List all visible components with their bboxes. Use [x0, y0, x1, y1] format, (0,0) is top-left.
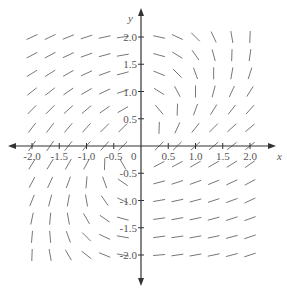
- slope-segment: [119, 124, 127, 132]
- x-tick-label: 2.0: [243, 150, 257, 162]
- x-axis-right-arrow-icon: [268, 143, 276, 149]
- slope-segment: [171, 254, 183, 256]
- slope-segment: [118, 179, 128, 186]
- slope-segment: [103, 177, 107, 188]
- slope-segment: [208, 254, 220, 256]
- slope-segment: [100, 124, 108, 132]
- y-tick-label: -0.5: [120, 167, 138, 179]
- slope-segment: [30, 195, 34, 206]
- x-tick-label: -1.0: [78, 150, 96, 162]
- slope-segment: [226, 180, 237, 185]
- slope-segment: [31, 213, 33, 225]
- x-tick-label: -0.5: [105, 150, 123, 162]
- slope-segment: [50, 213, 51, 225]
- slope-segment: [45, 88, 54, 95]
- slope-segment: [63, 35, 74, 39]
- slope-segment: [29, 177, 35, 188]
- slope-segment: [45, 52, 56, 58]
- slope-segment: [153, 254, 165, 255]
- y-tick-label: 0.5: [123, 113, 137, 125]
- slope-segment: [153, 199, 165, 201]
- x-axis-left-arrow-icon: [8, 143, 16, 149]
- slope-segment: [190, 199, 202, 202]
- slope-segment: [117, 217, 129, 220]
- slope-segment: [117, 54, 129, 56]
- slope-segment: [172, 34, 183, 39]
- origin-label: 0: [131, 150, 137, 162]
- slope-segment: [172, 52, 182, 58]
- slope-segment: [84, 213, 90, 223]
- slope-segment: [171, 199, 183, 201]
- y-tick-label: 2.0: [123, 31, 137, 43]
- slope-segment: [86, 176, 87, 188]
- slope-segment: [244, 217, 255, 221]
- slope-segment: [231, 31, 233, 43]
- slope-segment: [208, 180, 219, 184]
- slope-segment: [246, 105, 254, 114]
- slope-segment: [208, 199, 219, 203]
- slope-segment: [227, 124, 236, 132]
- slope-segment: [190, 161, 200, 167]
- slope-segment: [28, 105, 36, 113]
- slope-segment: [208, 217, 220, 220]
- slope-segment: [172, 180, 183, 184]
- slope-segment: [153, 36, 165, 38]
- slope-segment: [81, 71, 92, 76]
- slope-segment: [65, 250, 71, 260]
- slope-segment: [175, 86, 181, 97]
- x-tick-label: -1.5: [51, 150, 69, 162]
- slope-segment: [153, 54, 165, 57]
- slope-segment: [101, 196, 108, 206]
- slope-segment: [153, 218, 165, 220]
- slope-segment: [27, 52, 38, 58]
- slope-segment: [209, 124, 217, 132]
- slope-segment: [31, 231, 32, 243]
- slope-segment: [118, 107, 128, 113]
- slope-segment: [153, 181, 165, 184]
- slope-segment: [45, 70, 55, 76]
- x-tick-label: 1.5: [216, 150, 230, 162]
- slope-segment: [154, 161, 165, 167]
- slope-segment: [228, 105, 235, 114]
- slope-segment: [27, 34, 38, 39]
- slope-segment: [99, 89, 110, 94]
- slope-segment: [172, 161, 183, 167]
- slope-segment: [49, 195, 52, 207]
- slope-segment: [100, 215, 110, 222]
- slope-segment: [226, 217, 237, 221]
- y-tick-label: 1.0: [123, 86, 137, 98]
- slope-segment: [82, 251, 91, 258]
- slope-segment: [85, 195, 87, 207]
- slope-segment: [192, 50, 199, 60]
- slope-segment: [245, 124, 254, 132]
- slope-segment: [193, 68, 197, 79]
- slope-segment: [244, 253, 255, 257]
- y-axis-label: y: [127, 12, 133, 24]
- slope-segment: [249, 49, 251, 61]
- slope-segment: [27, 88, 36, 95]
- x-tick-label: 1.0: [189, 150, 203, 162]
- slope-segment: [171, 236, 183, 238]
- slope-segment: [82, 123, 90, 132]
- slope-segment: [46, 105, 54, 113]
- slope-segment: [64, 123, 72, 132]
- slope-segment: [154, 71, 165, 75]
- x-axis-label: x: [276, 150, 282, 162]
- slope-segment: [190, 217, 202, 219]
- slope-segment: [117, 72, 129, 75]
- slope-segment: [99, 253, 110, 257]
- slope-segment: [27, 70, 37, 76]
- slope-segment: [212, 49, 215, 61]
- slope-segment: [82, 233, 90, 241]
- slope-segment: [67, 213, 69, 225]
- slope-segment: [81, 53, 92, 57]
- slope-segment: [190, 180, 201, 184]
- slope-segment: [226, 235, 238, 238]
- y-tick-label: -2.0: [120, 249, 138, 261]
- slope-segment: [28, 123, 35, 132]
- slope-segment: [231, 67, 233, 79]
- slope-segment: [64, 106, 73, 114]
- slope-field-figure: -2.0-1.5-1.0-0.50.51.01.52.02.01.51.00.5…: [0, 0, 287, 292]
- slope-segment: [192, 123, 199, 132]
- y-tick-label: -1.0: [120, 195, 138, 207]
